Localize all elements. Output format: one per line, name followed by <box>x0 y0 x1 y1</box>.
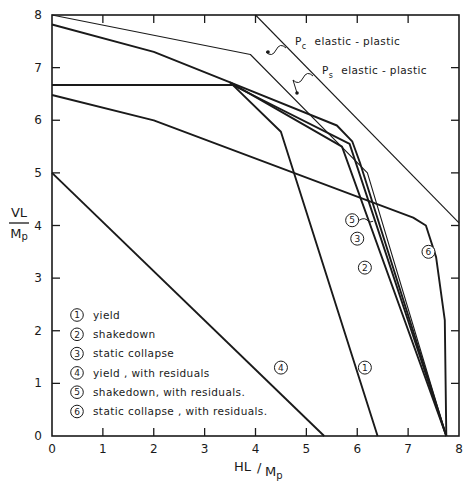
svg-text:4: 4 <box>74 368 80 378</box>
curve-label-4: 4 <box>274 361 287 374</box>
curve-label-1: 1 <box>358 361 371 374</box>
x-tick-label: 1 <box>99 442 107 456</box>
x-tick-label: 0 <box>48 442 56 456</box>
svg-text:2: 2 <box>362 263 368 273</box>
legend-item-3: 3static collapse <box>71 347 175 360</box>
svg-text:VL: VL <box>11 205 28 220</box>
x-tick-label: 8 <box>455 442 463 456</box>
y-tick-label: 6 <box>34 113 42 127</box>
curve-1-yield <box>230 82 378 436</box>
y-tick-label: 2 <box>34 324 42 338</box>
y-tick-label: 4 <box>34 219 42 233</box>
curve-labels: 123456 <box>274 214 435 374</box>
leader-arrow-icon <box>293 73 313 93</box>
curve-label-5: 5 <box>346 214 359 227</box>
y-tick-label: 5 <box>34 166 42 180</box>
x-tick-label: 3 <box>201 442 209 456</box>
svg-text:4: 4 <box>278 363 284 373</box>
y-tick-label: 1 <box>34 376 42 390</box>
svg-text:1: 1 <box>74 310 80 320</box>
curve-2-shakedown <box>230 82 446 436</box>
axis-labels: HL/MpVLMp <box>9 205 283 481</box>
y-tick-label: 3 <box>34 271 42 285</box>
legend-label: static collapse , with residuals. <box>93 405 267 417</box>
curve-label-3: 3 <box>351 232 364 245</box>
legend-item-6: 6static collapse , with residuals. <box>71 405 268 418</box>
curve-label-2: 2 <box>358 261 371 274</box>
legend-label: yield <box>93 309 120 321</box>
svg-text:5: 5 <box>74 387 80 397</box>
legend-label: static collapse <box>93 347 174 359</box>
svg-text:Pselastic - plastic: Pselastic - plastic <box>322 64 427 80</box>
svg-text:2: 2 <box>74 330 80 340</box>
x-axis-label: HL/Mp <box>234 459 283 481</box>
legend-label: shakedown <box>93 328 156 340</box>
y-axis-label: VLMp <box>9 205 29 242</box>
svg-text:5: 5 <box>349 215 355 225</box>
svg-text:HL: HL <box>234 459 252 474</box>
y-tick-label: 0 <box>34 429 42 443</box>
x-tick-label: 2 <box>150 442 158 456</box>
svg-text:Mp: Mp <box>10 226 28 242</box>
svg-text:1: 1 <box>362 363 368 373</box>
curve-label-6: 6 <box>422 245 435 258</box>
x-tick-label: 4 <box>252 442 260 456</box>
label-5-leader-icon <box>359 219 373 223</box>
annotation-pc: Pcelastic - plastic <box>266 35 400 55</box>
legend-item-1: 1yield <box>71 309 120 322</box>
svg-text:Mp: Mp <box>265 464 283 481</box>
legend: 1yield2shakedown3static collapse4yield ,… <box>71 309 268 418</box>
curve-6-static-collapse-with-residuals <box>52 95 446 436</box>
interaction-diagram-chart: 012345678012345678 123456 Pcelastic - pl… <box>0 0 475 484</box>
x-tick-label: 5 <box>303 442 311 456</box>
y-tick-label: 8 <box>34 8 42 22</box>
x-tick-label: 6 <box>353 442 361 456</box>
svg-text:3: 3 <box>74 349 80 359</box>
x-tick-label: 7 <box>404 442 412 456</box>
legend-item-5: 5shakedown, with residuals. <box>71 386 245 399</box>
curve-5-shakedown-with-residuals <box>233 85 447 436</box>
svg-text:6: 6 <box>74 407 80 417</box>
svg-text:3: 3 <box>354 234 360 244</box>
legend-item-4: 4yield , with residuals <box>71 367 210 380</box>
legend-item-2: 2shakedown <box>71 328 156 341</box>
svg-text:/: / <box>257 460 262 475</box>
y-tick-label: 7 <box>34 61 42 75</box>
svg-text:Pcelastic - plastic: Pcelastic - plastic <box>295 35 400 51</box>
legend-label: shakedown, with residuals. <box>93 386 245 398</box>
legend-label: yield , with residuals <box>93 367 210 379</box>
annotation-ps: Pselastic - plastic <box>293 64 427 95</box>
svg-text:6: 6 <box>426 247 432 257</box>
annotations: Pcelastic - plasticPselastic - plastic <box>266 35 427 95</box>
